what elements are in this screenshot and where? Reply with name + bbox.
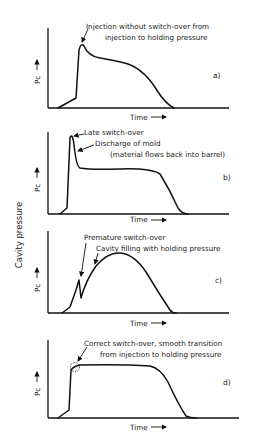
annotation-arrow-discharge xyxy=(78,145,94,151)
pc-label: Pc xyxy=(33,76,42,84)
annotation-text-line1: Injection without switch-over from xyxy=(86,22,209,31)
panel-c: Premature switch-over Cavity filling wit… xyxy=(33,231,229,328)
panel-id: c) xyxy=(215,276,222,285)
cavity-pressure-diagram: Cavity pressure Injection without switch… xyxy=(0,0,273,441)
panel-id: d) xyxy=(223,378,231,387)
pressure-curve xyxy=(58,365,196,418)
time-label: Time xyxy=(129,319,148,328)
annotation-discharge-note: (material flows back into barrel) xyxy=(110,150,225,159)
pc-label: Pc xyxy=(33,388,42,396)
annotation-arrow xyxy=(78,347,87,361)
pc-label: Pc xyxy=(33,184,42,192)
annotation-text-line2: from injection to holding pressure xyxy=(100,350,222,359)
annotation-text-line2: injection to holding pressure xyxy=(105,33,208,42)
panel-d: Correct switch-over, smooth transition f… xyxy=(33,339,239,432)
annotation-text-line1: Correct switch-over, smooth transition xyxy=(84,339,222,348)
annotation-arrow-cavity-filling xyxy=(95,253,98,264)
panel-id: b) xyxy=(223,173,231,182)
annotation-discharge: Discharge of mold xyxy=(95,139,160,148)
panel-a: Injection without switch-over from injec… xyxy=(33,22,229,122)
pressure-curve xyxy=(58,45,174,108)
time-label: Time xyxy=(129,215,148,224)
pressure-curve xyxy=(62,253,176,313)
annotation-arrow-premature xyxy=(81,243,86,276)
annotation-arrow-late xyxy=(74,134,84,136)
annotation-premature-switchover: Premature switch-over xyxy=(84,233,165,242)
annotation-cavity-filling: Cavity filling with holding pressure xyxy=(96,244,221,253)
time-label: Time xyxy=(129,113,148,122)
pc-label: Pc xyxy=(33,284,42,292)
y-axis-title: Cavity pressure xyxy=(14,202,24,268)
panel-id: a) xyxy=(213,71,221,80)
panel-b: Late switch-over Discharge of mold (mate… xyxy=(33,128,231,224)
time-label: Time xyxy=(129,423,148,432)
annotation-late-switchover: Late switch-over xyxy=(84,128,144,137)
